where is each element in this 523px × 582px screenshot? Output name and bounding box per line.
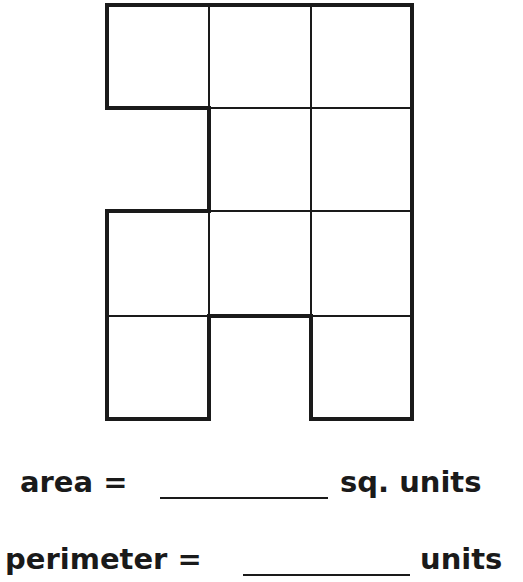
grid-shape-figure xyxy=(0,0,523,440)
area-label: area = xyxy=(20,468,128,497)
area-answer-blank[interactable] xyxy=(160,497,328,499)
perimeter-answer-blank[interactable] xyxy=(243,574,410,576)
perimeter-unit: units xyxy=(420,545,502,574)
perimeter-label: perimeter = xyxy=(5,545,202,574)
area-unit: sq. units xyxy=(340,468,482,497)
